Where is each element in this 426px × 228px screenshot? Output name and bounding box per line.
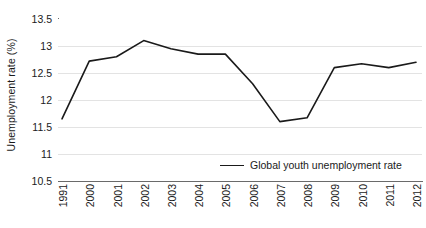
x-tick-label-2004: 2004 — [193, 184, 205, 207]
y-axis-title: Unemployment rate (%) — [0, 0, 22, 190]
y-tick-label-11: 11 — [41, 148, 52, 160]
legend-line-swatch — [220, 165, 244, 166]
chart-legend: Global youth unemployment rate — [220, 159, 402, 171]
x-tick-label-2002: 2002 — [139, 184, 151, 207]
x-tick-label-2009: 2009 — [329, 184, 341, 207]
plot-area — [58, 19, 422, 181]
x-tick-label-2010: 2010 — [357, 184, 369, 207]
x-axis-tick-labels: 1991200020012002200320042005200620072008… — [58, 182, 422, 228]
y-axis-tick-labels: 10.51111.51212.51313.5 — [22, 0, 55, 228]
y-axis-title-label: Unemployment rate (%) — [5, 39, 17, 152]
y-tick-label-13.5: 13.5 — [32, 13, 52, 25]
y-tick-label-12: 12 — [40, 94, 52, 106]
y-tick-label-13: 13 — [40, 40, 52, 52]
x-tick-label-2011: 2011 — [384, 184, 396, 207]
x-tick-label-2012: 2012 — [411, 184, 423, 207]
y-tick-label-10.5: 10.5 — [32, 175, 52, 187]
x-tick-label-1991: 1991 — [57, 184, 69, 207]
y-tick-label-12.5: 12.5 — [32, 67, 52, 79]
x-tick-label-2005: 2005 — [220, 184, 232, 207]
legend-label-global-youth-unemployment-rate: Global youth unemployment rate — [250, 159, 402, 171]
x-tick-label-2008: 2008 — [302, 184, 314, 207]
x-tick-label-2007: 2007 — [275, 184, 287, 207]
series-line-global-youth-unemployment-rate — [62, 41, 416, 122]
y-tick-label-11.5: 11.5 — [32, 121, 52, 133]
x-tick-label-2001: 2001 — [112, 184, 124, 207]
x-tick-label-2003: 2003 — [166, 184, 178, 207]
x-tick-label-2000: 2000 — [84, 184, 96, 207]
line-chart: Unemployment rate (%) 10.51111.51212.513… — [0, 0, 426, 228]
x-tick-label-2006: 2006 — [248, 184, 260, 207]
series-lines — [58, 19, 422, 181]
